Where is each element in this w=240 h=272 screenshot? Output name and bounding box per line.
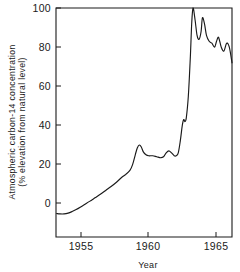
axis-frame [56, 8, 232, 237]
y-axis-title-line2: (% elevation from natural level) [17, 57, 27, 187]
y-tick-label-20: 20 [39, 158, 51, 170]
x-tick-label-1960: 1960 [136, 240, 161, 252]
x-tick-label-1955: 1955 [69, 240, 94, 252]
chart-canvas: Atmospheric carbon-14 concentration (% e… [0, 0, 240, 272]
y-axis-ticks [56, 8, 61, 203]
y-tick-label-80: 80 [39, 41, 51, 53]
carbon-14-chart-figure: Atmospheric carbon-14 concentration (% e… [0, 0, 240, 272]
y-tick-label-60: 60 [39, 80, 51, 92]
x-tick-label-1965: 1965 [204, 240, 229, 252]
x-axis-title: Year [138, 260, 158, 270]
y-tick-label-0: 0 [45, 197, 51, 209]
y-axis-title-line1: Atmospheric carbon-14 concentration [7, 44, 17, 199]
x-axis-ticks [81, 232, 216, 237]
y-tick-label-100: 100 [33, 2, 51, 14]
y-tick-label-40: 40 [39, 119, 51, 131]
carbon-14-series-line [57, 8, 232, 214]
